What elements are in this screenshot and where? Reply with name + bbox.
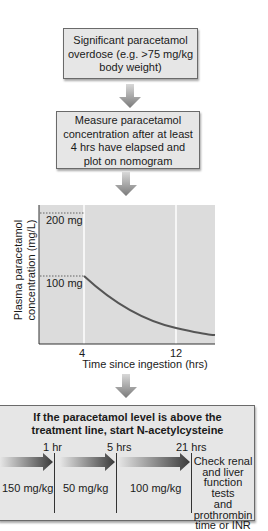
label-200mg: 200 mg bbox=[46, 214, 83, 226]
dose-150: 150 mg/kg bbox=[2, 482, 53, 494]
divider-1hr bbox=[54, 453, 55, 513]
dose-50: 50 mg/kg bbox=[63, 482, 108, 494]
time-mark-21hrs: 21 hrs bbox=[176, 441, 207, 453]
label-100mg: 100 mg bbox=[46, 277, 83, 289]
right-arrow-icon bbox=[60, 453, 115, 471]
x-axis-label: Time since ingestion (hrs) bbox=[82, 358, 208, 370]
down-arrow-icon bbox=[115, 374, 137, 398]
treatment-heading: If the paracetamol level is above the tr… bbox=[0, 411, 255, 437]
right-arrow-icon bbox=[118, 453, 190, 471]
dose-100: 100 mg/kg bbox=[130, 482, 181, 494]
y-axis-label: Plasma paracetamol concentration (mg/L) bbox=[12, 220, 37, 321]
time-mark-1hr: 1 hr bbox=[43, 441, 62, 453]
time-mark-5hrs: 5 hrs bbox=[107, 441, 131, 453]
right-arrow-icon bbox=[0, 453, 53, 471]
divider-5hrs bbox=[116, 453, 117, 513]
followup-text: Check renal and liver function tests and… bbox=[192, 456, 254, 531]
